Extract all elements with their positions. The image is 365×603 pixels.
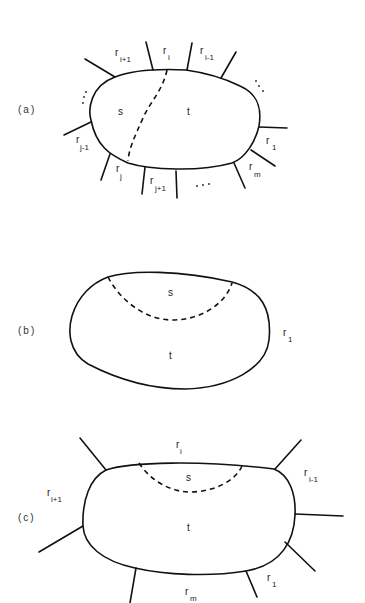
svg-text:r: r [150, 175, 154, 186]
edge-label-a-r-j-1: r j-1 [76, 134, 89, 152]
region-t-b: t [169, 350, 172, 361]
edge-label-c-r-i-1: r i-1 [304, 467, 318, 484]
svg-text:i+1: i+1 [120, 55, 131, 64]
region-boundary-a [90, 70, 260, 169]
region-t-a: t [187, 106, 190, 117]
svg-text:i+1: i+1 [51, 495, 62, 504]
region-t-c: t [187, 522, 190, 533]
region-s-c: s [186, 472, 191, 483]
region-s-a: s [118, 106, 123, 117]
edge-label-a-r-i+1: r i+1 [115, 47, 131, 64]
dashed-divider-b [108, 277, 232, 320]
panel-b: (b) s t r 1 [18, 272, 293, 389]
svg-text:r: r [115, 47, 119, 58]
edge-label-a-r-i: r i [163, 45, 170, 62]
edge-label-a-r-i-1: r i-1 [200, 45, 214, 62]
region-s-b: s [168, 287, 173, 298]
panel-a: (a) s t r i+1 r i [18, 42, 287, 198]
svg-text:i-1: i-1 [309, 475, 318, 484]
svg-text:1: 1 [288, 335, 293, 344]
svg-text:j+1: j+1 [154, 184, 166, 193]
svg-text:r: r [200, 45, 204, 56]
diagram-canvas: (a) s t r i+1 r i [0, 0, 365, 603]
panel-c: (c) s t r i r i-1 r i+1 r 1 [18, 438, 343, 603]
svg-text:i: i [168, 53, 170, 62]
svg-text:m: m [254, 170, 261, 179]
edge-label-a-r-1: r 1 [266, 135, 277, 152]
svg-text:r: r [304, 467, 308, 478]
ellipsis-right-a [255, 80, 264, 92]
panel-c-label: (c) [18, 512, 36, 523]
svg-text:r: r [283, 327, 287, 338]
edge-label-a-r-j: r j [116, 163, 122, 181]
edge-label-a-r-m: r m [249, 161, 261, 179]
svg-text:r: r [266, 135, 270, 146]
svg-text:r: r [249, 161, 253, 172]
svg-text:j: j [119, 172, 122, 181]
svg-text:1: 1 [272, 143, 277, 152]
edge-label-a-r-j+1: r j+1 [150, 175, 166, 193]
svg-text:j-1: j-1 [79, 143, 89, 152]
edge-label-b-r-1: r 1 [283, 327, 293, 344]
panel-b-label: (b) [18, 325, 36, 336]
svg-text:r: r [185, 586, 189, 597]
edge-label-c-r-1: r 1 [267, 572, 277, 589]
edge-label-c-r-i+1: r i+1 [47, 487, 62, 504]
edge-label-c-r-m: r m [185, 586, 197, 603]
panel-a-label: (a) [18, 104, 36, 115]
svg-text:r: r [163, 45, 167, 56]
edge-label-c-r-i: r i [176, 439, 182, 456]
ellipsis-bottom-a [196, 183, 210, 187]
svg-text:i-1: i-1 [205, 53, 214, 62]
ellipsis-left-a [82, 91, 87, 104]
svg-text:m: m [190, 594, 197, 603]
svg-text:1: 1 [272, 580, 277, 589]
svg-text:i: i [180, 447, 182, 456]
dashed-divider-a [128, 70, 167, 161]
svg-text:r: r [267, 572, 271, 583]
